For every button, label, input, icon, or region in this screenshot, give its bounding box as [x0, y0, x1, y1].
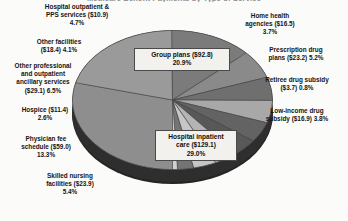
pie-chart-figure: Medicare Benefit Payments by Type of Ser… — [0, 0, 348, 221]
label-prescription-drug: Prescription drug plans ($23.2) 5.2% — [250, 46, 342, 62]
label-other-facilities: Other facilities ($18.4) 4.1% — [16, 38, 102, 54]
label-hospice: Hospice ($11.4) 2.6% — [6, 106, 84, 122]
label-hospital-outpatient: Hospital outpatient & PPS services ($10.… — [34, 3, 120, 28]
label-low-income-drug: Low-income drug subsidy ($16.9) 3.8% — [248, 107, 346, 123]
label-other-professional: Other professional and outpatient ancill… — [1, 62, 85, 95]
callout-group-plans: Group plans ($92.8) 20.9% — [134, 48, 230, 71]
label-retiree-drug: Retiree drug subsidy ($3.7) 0.8% — [248, 76, 346, 92]
label-physician-fee: Physician fee schedule ($59.0) 13.3% — [6, 135, 86, 160]
label-home-health: Home health agencies ($16.5) 3.7% — [228, 12, 312, 37]
chart-title-fragment: Medicare Benefit Payments by Type of Ser… — [0, 0, 348, 2]
label-skilled-nursing: Skilled nursing facilities ($23.9) 5.4% — [28, 172, 112, 197]
callout-hospital-inpatient: Hospital inpatient care ($129.1) 29.0% — [155, 130, 237, 161]
